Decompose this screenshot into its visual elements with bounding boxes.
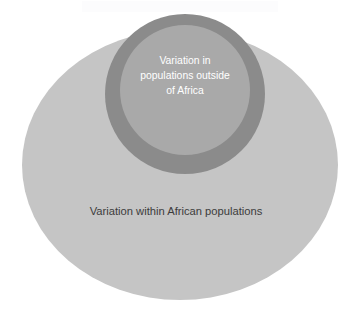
outer-region-label: Variation within African populations xyxy=(90,205,263,217)
inner-label-line-3: of Africa xyxy=(166,85,204,96)
venn-diagram: Variation in populations outside of Afri… xyxy=(0,0,353,323)
venn-diagram-canvas: Variation in populations outside of Afri… xyxy=(0,0,353,323)
inner-label-line-2: populations outside xyxy=(140,70,230,81)
inner-label-line-1: Variation in xyxy=(159,55,210,66)
